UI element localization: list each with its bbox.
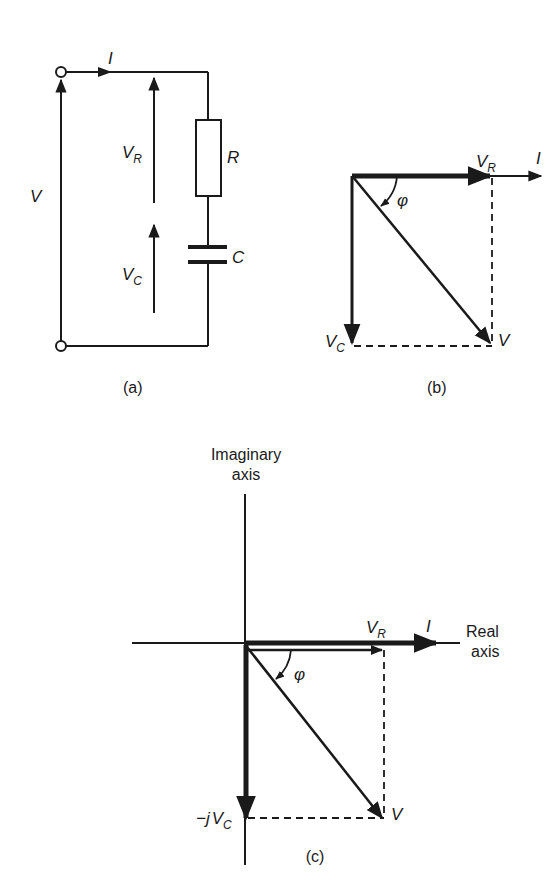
panel-b-phasor xyxy=(352,176,541,346)
panel-a-caption: (a) xyxy=(123,379,143,396)
current-label: I xyxy=(108,49,113,68)
v-label: V xyxy=(391,805,404,824)
v-phasor xyxy=(247,647,382,818)
figure-canvas: I V VR R VC C (a) VR I φ VC V (b) xyxy=(0,0,560,893)
capacitor-label: C xyxy=(232,248,245,267)
vr-label: VR xyxy=(476,152,496,175)
v-label: V xyxy=(498,331,511,350)
imaginary-axis-label-line2: axis xyxy=(232,466,260,483)
panel-c-labels: Imaginary axis Real axis VR I φ −jVC V (… xyxy=(196,446,499,865)
panel-a-circuit xyxy=(56,67,227,351)
vc-label: VC xyxy=(325,332,345,355)
real-axis-label-line1: Real xyxy=(466,623,499,640)
vc-label: VC xyxy=(122,265,142,288)
current-label: I xyxy=(536,149,541,168)
imaginary-axis-label-line1: Imaginary xyxy=(211,446,281,463)
resistor-label: R xyxy=(227,148,239,167)
top-terminal xyxy=(56,67,66,77)
phi-arc xyxy=(276,650,291,679)
phi-label: φ xyxy=(294,665,305,684)
real-axis-label-line2: axis xyxy=(471,643,499,660)
resistor xyxy=(196,120,221,196)
phi-label: φ xyxy=(397,191,408,210)
neg-j-vc-label: −jVC xyxy=(196,809,232,832)
vr-label: VR xyxy=(122,143,142,166)
panel-c-caption: (c) xyxy=(306,848,325,865)
v-phasor xyxy=(353,177,490,343)
current-arrow-icon xyxy=(98,67,112,77)
panel-b-caption: (b) xyxy=(427,379,447,396)
vr-label: VR xyxy=(366,618,386,641)
current-label: I xyxy=(426,617,431,636)
source-voltage-label: V xyxy=(30,187,43,206)
bottom-terminal xyxy=(56,341,66,351)
phi-arc xyxy=(381,176,397,206)
